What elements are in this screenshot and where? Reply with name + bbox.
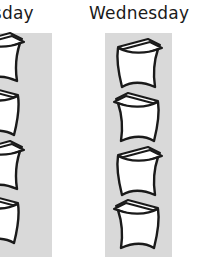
book-icon bbox=[0, 137, 32, 195]
chart-column-tuesday: esday bbox=[0, 0, 52, 257]
pictograph-chart: esday bbox=[0, 0, 204, 257]
chart-column-wednesday: Wednesday bbox=[105, 0, 172, 257]
icon-stack-wednesday bbox=[105, 33, 172, 257]
book-icon bbox=[0, 83, 28, 141]
book-icon bbox=[108, 143, 170, 201]
icon-stack-tuesday bbox=[0, 33, 52, 257]
book-icon bbox=[108, 35, 170, 93]
book-icon bbox=[106, 196, 168, 254]
book-icon bbox=[0, 191, 28, 249]
book-icon bbox=[0, 29, 32, 87]
book-icon bbox=[106, 89, 168, 147]
column-header-wednesday: Wednesday bbox=[89, 0, 188, 33]
